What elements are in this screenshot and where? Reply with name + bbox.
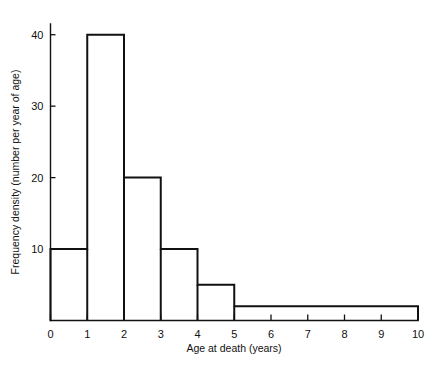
y-tick-label: 30 [31,100,43,112]
x-tick-label: 3 [158,328,164,340]
x-tick-label: 5 [231,328,237,340]
x-tick-label: 9 [378,328,384,340]
histogram-figure: 10203040 012345678910 Age at death (year… [0,0,433,369]
x-tick-label: 10 [412,328,424,340]
x-tick-label: 2 [121,328,127,340]
x-tick-label: 0 [47,328,53,340]
x-axis-ticks: 012345678910 [47,315,424,340]
x-axis-title: Age at death (years) [186,342,281,354]
y-tick-label: 40 [31,29,43,41]
x-tick-label: 8 [341,328,347,340]
y-tick-label: 10 [31,243,43,255]
x-tick-label: 1 [84,328,90,340]
y-axis-title: Frequency density (number per year of ag… [9,70,21,275]
histogram-outline [51,35,419,321]
y-tick-label: 20 [31,172,43,184]
x-tick-label: 6 [268,328,274,340]
x-tick-label: 7 [305,328,311,340]
axis-lines [51,24,419,321]
histogram-plot: 10203040 012345678910 Age at death (year… [0,0,433,369]
y-axis-ticks: 10203040 [31,29,55,255]
x-tick-label: 4 [194,328,200,340]
